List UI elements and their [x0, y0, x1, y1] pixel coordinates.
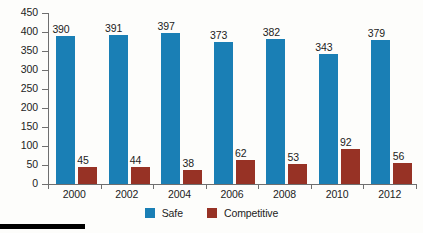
- bar-group: 39045: [48, 13, 101, 184]
- x-axis-tick: [416, 184, 417, 189]
- y-axis-tick-label: 0: [4, 177, 38, 189]
- y-axis-tick-label: 200: [4, 101, 38, 113]
- x-axis-category-label: 2004: [153, 188, 206, 200]
- bar-safe[interactable]: [214, 42, 233, 184]
- y-axis-tick-label: 300: [4, 63, 38, 75]
- y-axis-tick-label: 400: [4, 25, 38, 37]
- bar-comp[interactable]: [131, 167, 150, 184]
- bar-group: 39144: [101, 13, 154, 184]
- bar-value-label: 45: [66, 154, 100, 166]
- y-axis-tick-label: 100: [4, 139, 38, 151]
- y-axis-tick-label: 450: [4, 6, 38, 18]
- bar-group: 39738: [153, 13, 206, 184]
- x-axis-category-label: 2008: [258, 188, 311, 200]
- bar-chart: 450400350300250200150100500 390453914439…: [0, 0, 423, 233]
- legend-swatch-icon: [145, 208, 155, 218]
- bar-safe[interactable]: [319, 54, 338, 184]
- bottom-rule: [0, 224, 85, 229]
- y-axis-tick-label: 350: [4, 44, 38, 56]
- bar-value-label: 382: [254, 26, 288, 38]
- legend-item-comp[interactable]: Competitive: [207, 207, 278, 219]
- bar-value-label: 92: [329, 136, 363, 148]
- bar-comp[interactable]: [288, 164, 307, 184]
- y-axis-tick-label: 250: [4, 82, 38, 94]
- bar-group: 34392: [311, 13, 364, 184]
- bar-group: 37362: [206, 13, 259, 184]
- x-axis-category-label: 2012: [363, 188, 416, 200]
- bar-value-label: 391: [97, 22, 131, 34]
- x-axis-category-label: 2000: [48, 188, 101, 200]
- plot-area: 39045391443973837362382533439237956: [48, 13, 416, 184]
- bar-value-label: 56: [381, 150, 415, 162]
- bar-comp[interactable]: [183, 170, 202, 184]
- bar-value-label: 38: [171, 157, 205, 169]
- bar-value-label: 379: [359, 27, 393, 39]
- bar-value-label: 44: [119, 154, 153, 166]
- y-axis-tick-label: 150: [4, 120, 38, 132]
- bar-comp[interactable]: [393, 163, 412, 184]
- bar-comp[interactable]: [236, 160, 255, 184]
- x-axis-category-label: 2010: [311, 188, 364, 200]
- bar-group: 37956: [363, 13, 416, 184]
- bar-safe[interactable]: [371, 40, 390, 184]
- x-axis-category-label: 2002: [101, 188, 154, 200]
- legend-swatch-icon: [207, 208, 217, 218]
- bar-comp[interactable]: [78, 167, 97, 184]
- x-axis-line: [48, 184, 416, 185]
- bar-value-label: 62: [224, 147, 258, 159]
- chart-legend: SafeCompetitive: [0, 207, 423, 219]
- bar-value-label: 343: [307, 41, 341, 53]
- legend-item-safe[interactable]: Safe: [145, 207, 183, 219]
- bar-value-label: 373: [202, 29, 236, 41]
- x-axis-category-label: 2006: [206, 188, 259, 200]
- bar-value-label: 390: [44, 23, 78, 35]
- bar-value-label: 53: [276, 151, 310, 163]
- legend-label: Safe: [162, 207, 183, 219]
- y-axis-tick-label: 50: [4, 158, 38, 170]
- legend-label: Competitive: [224, 207, 278, 219]
- bar-group: 38253: [258, 13, 311, 184]
- bar-comp[interactable]: [341, 149, 360, 184]
- bar-value-label: 397: [149, 20, 183, 32]
